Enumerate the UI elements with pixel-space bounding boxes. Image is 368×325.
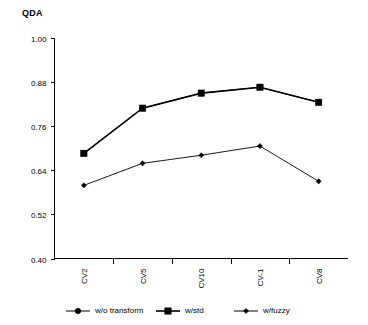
y-tick-label: 0.40 (31, 256, 47, 265)
y-tick-label-group: 1.000.880.760.640.520.40 (31, 35, 47, 265)
legend-item-w-o-transform[interactable]: w/o transform (66, 306, 144, 315)
diamond-marker (140, 161, 145, 166)
chart-container: QDA 1.000.880.760.640.520.40 CV2CV5CV10C… (0, 0, 368, 325)
circle-marker (75, 308, 81, 314)
diamond-marker (316, 179, 321, 184)
y-tick-label: 0.52 (31, 211, 47, 220)
legend-label: w/o transform (94, 306, 144, 315)
y-tick-label: 0.76 (31, 123, 47, 132)
legend-item-w-fuzzy[interactable]: w/fuzzy (234, 306, 290, 315)
diamond-marker (257, 143, 262, 148)
x-tick-label-group: CV2CV5CV10CV-1CV8 (80, 268, 324, 289)
square-marker (315, 99, 321, 105)
x-tick-label: CV-1 (256, 268, 265, 286)
series-w-fuzzy (81, 143, 321, 188)
diamond-marker (199, 153, 204, 158)
y-tick-group (51, 39, 55, 260)
x-tick-label: CV10 (197, 268, 206, 289)
y-tick-label: 0.88 (31, 79, 47, 88)
legend-label: w/std (184, 306, 204, 315)
x-tick-label: CV5 (139, 268, 148, 284)
x-tick-label: CV2 (80, 268, 89, 284)
y-tick-label: 1.00 (31, 35, 47, 44)
chart-legend: w/o transformw/stdw/fuzzy (66, 306, 290, 315)
series-w-std (81, 84, 322, 157)
x-tick-label: CV8 (315, 268, 324, 284)
legend-item-w-std[interactable]: w/std (156, 306, 204, 315)
series-line (84, 87, 319, 153)
legend-label: w/fuzzy (262, 306, 290, 315)
square-marker (198, 90, 204, 96)
diamond-marker (81, 183, 86, 188)
series-line (84, 87, 319, 153)
series-line (84, 146, 319, 185)
series-layer (81, 84, 322, 188)
y-tick-label: 0.64 (31, 167, 47, 176)
diamond-marker (243, 308, 248, 313)
square-marker (81, 150, 87, 156)
square-marker (165, 308, 171, 314)
square-marker (139, 105, 145, 111)
x-tick-group (114, 259, 290, 264)
chart-plot-area: 1.000.880.760.640.520.40 CV2CV5CV10CV-1C… (0, 0, 368, 325)
square-marker (257, 84, 263, 90)
